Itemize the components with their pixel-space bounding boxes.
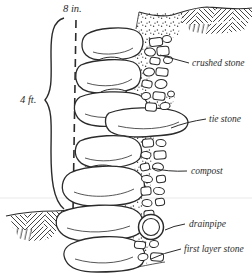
label-crushed-stone: crushed stone [192, 58, 245, 68]
label-first-layer-stone: first layer stone [184, 244, 244, 254]
drainpipe-circle [139, 215, 164, 240]
height-brace [45, 18, 64, 209]
retaining-wall-drawing: 8 in. 4 ft. crushed stone tie stone comp… [0, 0, 252, 274]
leader-drainpipe [165, 224, 185, 230]
retaining-wall-diagram: 8 in. 4 ft. crushed stone tie stone comp… [0, 0, 252, 274]
label-compost: compost [191, 166, 223, 176]
tie-stone-shape [105, 108, 187, 137]
label-8-in: 8 in. [63, 3, 82, 14]
first-layer-stone-shape [64, 237, 145, 272]
label-drainpipe: drainpipe [189, 219, 226, 229]
label-tie-stone: tie stone [209, 114, 241, 124]
label-4-ft: 4 ft. [20, 94, 36, 105]
